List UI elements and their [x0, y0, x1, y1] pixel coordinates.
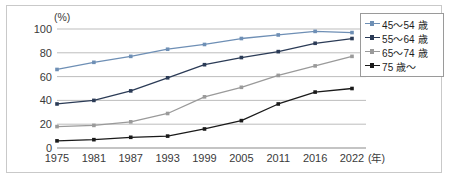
y-axis-tick-label: 40	[40, 94, 52, 106]
data-point-marker	[240, 86, 244, 90]
data-point-marker	[240, 119, 244, 123]
data-point-marker	[166, 47, 170, 51]
data-point-marker	[92, 138, 96, 142]
x-axis-unit-label: (年)	[368, 152, 385, 164]
data-point-marker	[350, 55, 354, 59]
y-axis-tick-label: 20	[40, 118, 52, 130]
legend-item-65-74[interactable]: 65〜74 歳	[365, 45, 440, 59]
data-point-marker	[92, 99, 96, 103]
data-point-marker	[276, 102, 280, 106]
legend-dot-icon	[370, 49, 374, 53]
data-point-marker	[203, 63, 207, 67]
data-point-marker	[166, 134, 170, 138]
legend-marker-icon	[365, 19, 380, 29]
legend-item-45-54[interactable]: 45〜54 歳	[365, 17, 440, 31]
data-point-marker	[240, 56, 244, 60]
legend-marker-icon	[365, 33, 380, 43]
data-point-marker	[203, 43, 207, 47]
data-point-marker	[313, 30, 317, 34]
data-point-marker	[203, 127, 207, 131]
data-point-marker	[55, 125, 59, 129]
legend-item-75-plus[interactable]: 75 歳〜	[365, 59, 440, 73]
data-point-marker	[129, 135, 133, 139]
legend-dot-icon	[370, 21, 374, 25]
chart-legend: 45〜54 歳 55〜64 歳 65〜74 歳 75 歳〜	[360, 13, 444, 77]
data-point-marker	[276, 33, 280, 37]
data-point-marker	[313, 41, 317, 45]
data-point-marker	[129, 55, 133, 59]
legend-label: 45〜54 歳	[382, 17, 428, 32]
legend-dot-icon	[370, 63, 374, 67]
data-point-marker	[55, 139, 59, 143]
data-point-marker	[350, 87, 354, 91]
legend-marker-icon	[365, 61, 380, 71]
data-point-marker	[55, 102, 59, 106]
data-point-marker	[276, 74, 280, 78]
y-axis-tick-label: 80	[40, 47, 52, 59]
y-axis-unit-label: (%)	[54, 11, 70, 23]
x-axis-tick-label: 2011	[266, 152, 290, 164]
legend-item-55-64[interactable]: 55〜64 歳	[365, 31, 440, 45]
legend-marker-icon	[365, 47, 380, 57]
x-axis-tick-label: 1993	[155, 152, 179, 164]
data-point-marker	[203, 95, 207, 99]
data-point-marker	[92, 124, 96, 128]
legend-label: 55〜64 歳	[382, 31, 428, 46]
legend-label: 65〜74 歳	[382, 45, 428, 60]
data-point-marker	[55, 68, 59, 72]
data-point-marker	[350, 37, 354, 41]
data-point-marker	[276, 50, 280, 54]
legend-dot-icon	[370, 35, 374, 39]
data-point-marker	[92, 61, 96, 65]
x-axis-tick-label: 1981	[82, 152, 106, 164]
data-point-marker	[129, 120, 133, 124]
x-axis-tick-label: 2022	[340, 152, 364, 164]
data-point-marker	[166, 76, 170, 80]
data-point-marker	[240, 37, 244, 41]
data-point-marker	[313, 90, 317, 94]
data-point-marker	[166, 112, 170, 116]
y-axis-tick-label: 100	[34, 23, 52, 35]
legend-label: 75 歳〜	[382, 59, 416, 74]
series-line-2	[57, 56, 352, 126]
x-axis-tick-label: 1999	[192, 152, 216, 164]
y-axis-tick-label: 60	[40, 71, 52, 83]
x-axis-tick-label: 1975	[45, 152, 69, 164]
x-axis-tick-label: 1987	[119, 152, 143, 164]
x-axis-tick-label: 2005	[229, 152, 253, 164]
data-point-marker	[350, 31, 354, 35]
data-point-marker	[313, 64, 317, 68]
x-axis-tick-label: 2016	[303, 152, 327, 164]
data-point-marker	[129, 89, 133, 93]
